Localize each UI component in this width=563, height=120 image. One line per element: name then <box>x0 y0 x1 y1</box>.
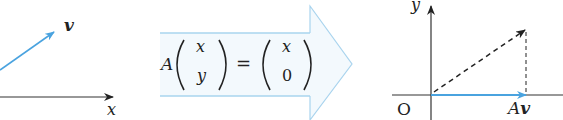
label-x: x <box>107 100 116 119</box>
transform-arrow <box>160 6 352 120</box>
original-vector-dashed <box>434 30 525 92</box>
input-x: x <box>196 37 205 56</box>
label-Av: Av <box>508 98 530 118</box>
matrix-A: A <box>161 54 173 74</box>
output-x: x <box>282 37 291 56</box>
left-panel <box>0 32 113 97</box>
label-Av-v: v <box>520 98 530 118</box>
output-zero: 0 <box>282 66 292 85</box>
label-y: y <box>411 0 420 14</box>
label-Av-A: A <box>508 98 520 118</box>
equals-sign: = <box>236 53 251 74</box>
vector-v <box>0 32 54 70</box>
label-origin: O <box>397 99 411 119</box>
input-y: y <box>197 66 206 85</box>
diagram-canvas <box>0 0 563 120</box>
right-panel <box>392 6 563 120</box>
label-v: v <box>64 15 74 35</box>
